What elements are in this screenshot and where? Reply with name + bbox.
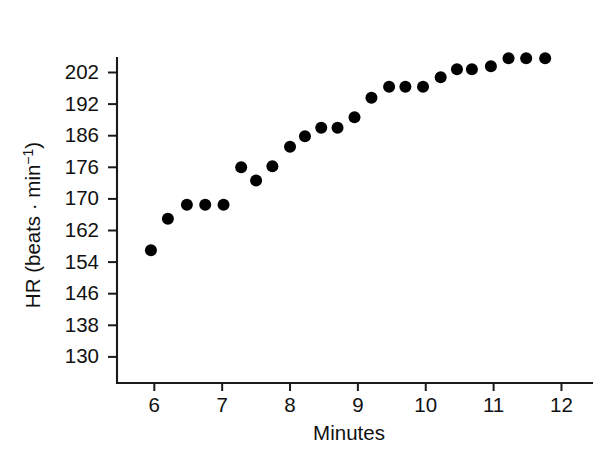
- y-axis-tick-labels: 130138146154162170176186192202: [65, 60, 99, 367]
- y-axis-tick-label: 154: [65, 250, 99, 273]
- data-point-series: [145, 52, 551, 256]
- data-point: [349, 111, 361, 123]
- x-axis-tick-label: 9: [352, 393, 363, 416]
- data-point: [332, 122, 344, 134]
- x-axis-tick-label: 7: [216, 393, 227, 416]
- y-axis-tick-label: 176: [65, 155, 99, 178]
- data-point: [250, 174, 262, 186]
- data-point: [539, 52, 551, 64]
- data-point: [284, 141, 296, 153]
- data-point: [199, 199, 211, 211]
- x-axis-group: 6789101112: [117, 383, 592, 416]
- data-point: [485, 60, 497, 72]
- y-axis-ticks: [108, 73, 117, 357]
- y-axis-title-superscript: −1: [20, 148, 36, 164]
- heart-rate-scatter-figure: 130138146154162170176186192202 678910111…: [0, 0, 607, 462]
- x-axis-ticks: [154, 383, 561, 391]
- data-point: [181, 199, 193, 211]
- data-point: [417, 81, 429, 93]
- data-point: [235, 161, 247, 173]
- chart-canvas: 130138146154162170176186192202 678910111…: [0, 0, 607, 462]
- x-axis-title: Minutes: [313, 421, 385, 444]
- y-axis-tick-label: 130: [65, 344, 99, 367]
- data-point: [365, 92, 377, 104]
- x-axis-tick-label: 11: [483, 393, 504, 416]
- x-axis-tick-label: 6: [149, 393, 160, 416]
- data-point: [218, 199, 230, 211]
- data-point: [399, 81, 411, 93]
- data-point: [383, 81, 395, 93]
- y-axis-tick-label: 202: [65, 60, 99, 83]
- y-axis-tick-label: 162: [65, 218, 99, 241]
- y-axis-title: HR (beats · min−1): [20, 142, 44, 308]
- data-point: [162, 213, 174, 225]
- data-point: [299, 130, 311, 142]
- y-axis-title-prefix: HR (beats · min: [21, 165, 44, 309]
- x-axis-tick-label: 10: [414, 393, 437, 416]
- x-axis-tick-label: 8: [284, 393, 295, 416]
- data-point: [503, 52, 515, 64]
- y-axis-tick-label: 192: [65, 92, 99, 115]
- x-axis-tick-label: 12: [550, 393, 573, 416]
- data-point: [520, 52, 532, 64]
- y-axis-tick-label: 138: [65, 313, 99, 336]
- y-axis-group: 130138146154162170176186192202: [65, 58, 117, 383]
- data-point: [315, 122, 327, 134]
- y-axis-title-suffix: ): [21, 142, 44, 149]
- y-axis-tick-label: 170: [65, 186, 99, 209]
- data-point: [451, 63, 463, 75]
- data-point: [266, 160, 278, 172]
- data-point: [145, 244, 157, 256]
- data-point: [466, 63, 478, 75]
- data-point: [435, 71, 447, 83]
- y-axis-tick-label: 186: [65, 123, 99, 146]
- y-axis-tick-label: 146: [65, 281, 99, 304]
- x-axis-tick-labels: 6789101112: [149, 393, 573, 416]
